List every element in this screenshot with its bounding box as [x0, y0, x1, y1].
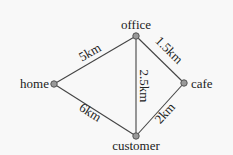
label-office: office	[121, 17, 151, 32]
edge-label-home-office: 5km	[76, 40, 104, 65]
edge-label-home-customer: 6km	[77, 100, 105, 125]
label-cafe: cafe	[191, 76, 213, 91]
node-home	[51, 81, 57, 87]
graph-diagram: office home cafe customer 5km 1.5km 2.5k…	[0, 0, 233, 155]
graph-canvas: office home cafe customer 5km 1.5km 2.5k…	[0, 0, 233, 155]
edge-label-office-customer: 2.5km	[137, 70, 152, 103]
edge-label-cafe-customer: 2km	[151, 99, 178, 126]
label-customer: customer	[112, 138, 160, 153]
label-home: home	[20, 76, 49, 91]
edge-label-office-cafe: 1.5km	[152, 33, 186, 67]
node-office	[133, 33, 139, 39]
node-cafe	[181, 80, 187, 86]
